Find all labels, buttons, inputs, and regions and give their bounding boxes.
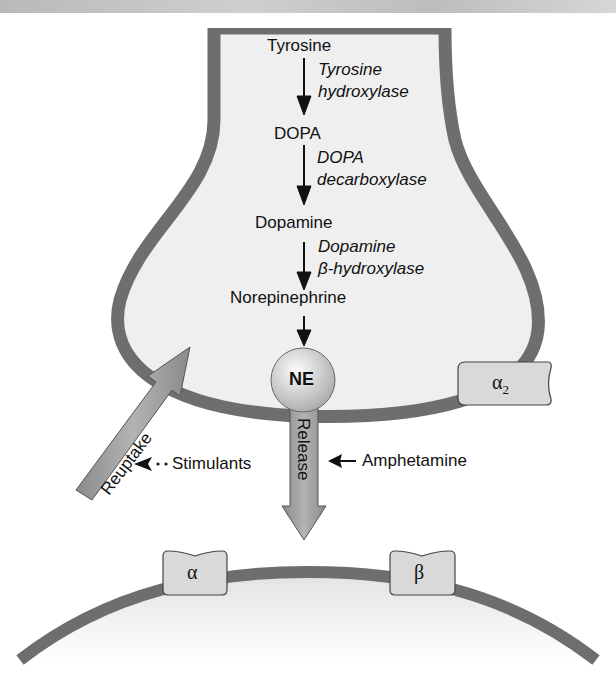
substrate-tyrosine: Tyrosine [267, 36, 331, 56]
synapse-diagram [0, 0, 616, 690]
enzyme-dopamine-beta-hydroxylase-line2: β-hydroxylase [318, 259, 424, 279]
substrate-norepinephrine: Norepinephrine [230, 288, 346, 308]
postsynaptic-cell [20, 572, 596, 660]
substrate-dopamine: Dopamine [255, 213, 333, 233]
alpha-receptor-label: α [187, 561, 197, 584]
beta-receptor-label: β [414, 561, 424, 584]
release-label: Release [293, 418, 313, 480]
alpha2-receptor-label: α2 [492, 371, 509, 398]
amphetamine-label: Amphetamine [362, 451, 467, 471]
enzyme-dopa-decarboxylase-line1: DOPA [317, 148, 364, 168]
stimulants-label: Stimulants [172, 454, 251, 474]
ne-label: NE [289, 369, 314, 390]
enzyme-tyrosine-hydroxylase-line1: Tyrosine [318, 60, 382, 80]
enzyme-tyrosine-hydroxylase-line2: hydroxylase [318, 82, 409, 102]
amphetamine-arrow [328, 454, 356, 468]
substrate-dopa: DOPA [274, 124, 321, 144]
enzyme-dopa-decarboxylase-line2: decarboxylase [317, 170, 427, 190]
enzyme-dopamine-beta-hydroxylase-line1: Dopamine [318, 237, 396, 257]
